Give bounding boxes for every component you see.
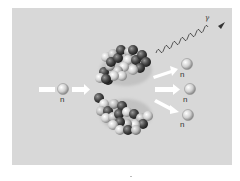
outgoing-arrow-3 xyxy=(154,99,179,114)
emitted-neutron-3-label: n xyxy=(180,121,184,129)
incoming-neutron-label: n xyxy=(60,96,64,104)
emitted-neutron-1 xyxy=(182,59,193,70)
fission-diagram xyxy=(0,0,240,181)
emitted-neutron-2 xyxy=(185,84,196,95)
emitted-neutron-1-label: n xyxy=(180,71,184,79)
incoming-arrow-2 xyxy=(72,84,90,95)
outgoing-arrow-2 xyxy=(155,84,180,95)
upper-fission-fragment xyxy=(95,45,152,86)
emitted-neutron-2-label: n xyxy=(183,96,187,104)
outgoing-arrow-1 xyxy=(153,66,178,79)
emitted-neutron-3 xyxy=(183,110,194,121)
incoming-arrow xyxy=(39,87,55,92)
lower-fission-fragment xyxy=(94,93,153,135)
gamma-ray-wave xyxy=(156,22,225,53)
decorative-dot xyxy=(130,176,132,177)
incoming-neutron xyxy=(58,84,69,95)
gamma-label: γ xyxy=(205,14,209,22)
